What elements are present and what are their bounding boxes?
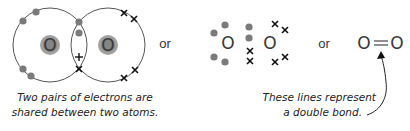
formula-left-atom: O: [357, 33, 370, 53]
left-nucleus: O: [40, 35, 60, 55]
structural-formula: O O These lines represent a double bond.: [263, 33, 404, 118]
shared-electrons-caption-line1: Two pairs of electrons are: [17, 91, 153, 103]
double-bond-lines: [374, 41, 388, 45]
or-connector-1: or: [159, 36, 171, 51]
right-nucleus: O: [98, 35, 118, 55]
oxygen-double-bond-diagram: O O Two pairs of electrons are shared be: [0, 0, 410, 131]
dot-cross-diagram: O O: [210, 21, 288, 66]
middle-left-atom-symbol: O: [221, 33, 234, 53]
formula-right-atom: O: [390, 33, 403, 53]
middle-right-atom-symbol: O: [263, 33, 276, 53]
arrowhead-icon: [377, 51, 385, 59]
annotation-arrow: [367, 55, 386, 115]
shell-diagram: O O Two pairs of electrons are shared be: [12, 8, 159, 118]
right-atom-symbol: O: [101, 35, 114, 55]
shared-electrons-caption-line2: shared between two atoms.: [12, 106, 159, 118]
double-bond-caption-line2: a double bond.: [283, 106, 362, 118]
or-connector-2: or: [318, 36, 330, 51]
left-atom-symbol: O: [43, 35, 56, 55]
double-bond-caption-line1: These lines represent: [263, 91, 377, 103]
